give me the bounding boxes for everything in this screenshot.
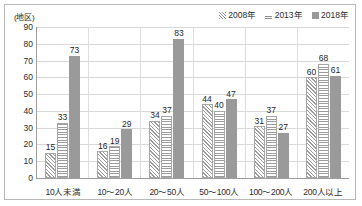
bar-rect <box>318 64 329 178</box>
x-tick-4: 50〜100人 <box>193 185 245 197</box>
x-tick-2: 10〜20人 <box>89 185 141 197</box>
bars: 313727 <box>246 27 297 178</box>
bar-value-label: 16 <box>98 142 107 151</box>
y-tick-30: 30 <box>5 123 33 132</box>
x-axis-baseline <box>36 178 349 179</box>
bar-value-label: 73 <box>70 46 79 55</box>
bar-value-label: 44 <box>202 95 211 104</box>
legend-label-2008: 2008年 <box>228 11 256 20</box>
y-tick-90: 90 <box>5 23 33 32</box>
bar-rect <box>214 111 225 178</box>
bar-value-label: 33 <box>58 113 67 122</box>
chart-frame: (地区) 2008年 2013年 2018年 90807060504030201… <box>4 4 356 200</box>
y-tick-10: 10 <box>5 157 33 166</box>
bar-group-2: 161929 <box>89 27 141 178</box>
bar-rect <box>161 116 172 178</box>
bar-rect <box>57 123 68 178</box>
bar-value-label: 27 <box>279 123 288 132</box>
bar-rect <box>306 77 317 178</box>
legend-swatch-diagonal-hatch-icon <box>219 12 226 19</box>
bar-rect <box>330 76 341 178</box>
y-tick-70: 70 <box>5 56 33 65</box>
x-tick-6: 200人以上 <box>297 185 349 197</box>
bar-value-label: 47 <box>226 90 235 99</box>
bar-2018年-20〜50人[interactable]: 83 <box>173 27 184 178</box>
bar-2018年-10人未満[interactable]: 73 <box>69 27 80 178</box>
bar-value-label: 37 <box>162 106 171 115</box>
bar-2008年-10人未満[interactable]: 15 <box>45 27 56 178</box>
y-tick-20: 20 <box>5 140 33 149</box>
legend-item-2008[interactable]: 2008年 <box>219 11 256 20</box>
bar-group-4: 444047 <box>194 27 246 178</box>
x-tick-3: 20〜50人 <box>141 185 193 197</box>
bar-2008年-20〜50人[interactable]: 34 <box>149 27 160 178</box>
bar-rect <box>121 129 132 178</box>
bars: 161929 <box>89 27 140 178</box>
bar-2008年-50〜100人[interactable]: 44 <box>202 27 213 178</box>
bars: 343783 <box>141 27 192 178</box>
bar-value-label: 34 <box>150 111 159 120</box>
bar-value-label: 37 <box>267 106 276 115</box>
bar-2018年-50〜100人[interactable]: 47 <box>226 27 237 178</box>
bar-2018年-200人以上[interactable]: 61 <box>330 27 341 178</box>
bar-value-label: 15 <box>46 143 55 152</box>
legend-label-2018: 2018年 <box>321 11 349 20</box>
y-tick-40: 40 <box>5 107 33 116</box>
bar-rect <box>202 104 213 178</box>
bar-2013年-10〜20人[interactable]: 19 <box>109 27 120 178</box>
bar-value-label: 68 <box>319 54 328 63</box>
bar-rect <box>149 121 160 178</box>
bar-rect <box>266 116 277 178</box>
bar-2013年-10人未満[interactable]: 33 <box>57 27 68 178</box>
x-tick-1: 10人未満 <box>37 185 89 197</box>
bar-value-label: 40 <box>214 101 223 110</box>
y-tick-50: 50 <box>5 90 33 99</box>
y-tick-80: 80 <box>5 40 33 49</box>
x-axis-tick-labels: 10人未満10〜20人20〜50人50〜100人100〜200人200人以上 <box>37 185 349 197</box>
bar-2018年-100〜200人[interactable]: 27 <box>278 27 289 178</box>
y-tick-0: 0 <box>5 174 33 183</box>
bar-2008年-200人以上[interactable]: 60 <box>306 27 317 178</box>
bar-2008年-10〜20人[interactable]: 16 <box>97 27 108 178</box>
legend-item-2018[interactable]: 2018年 <box>312 11 349 20</box>
legend-swatch-horizontal-stripe-icon <box>265 12 272 19</box>
bars: 153373 <box>37 27 88 178</box>
bar-groups: 153373161929343783444047313727606861 <box>37 27 349 178</box>
bars: 444047 <box>194 27 245 178</box>
bar-rect <box>109 146 120 178</box>
bar-value-label: 29 <box>122 120 131 129</box>
chart-legend: 2008年 2013年 2018年 <box>219 11 349 20</box>
bar-value-label: 83 <box>174 29 183 38</box>
bar-value-label: 60 <box>307 68 316 77</box>
bar-value-label: 31 <box>255 117 264 126</box>
bar-2013年-50〜100人[interactable]: 40 <box>214 27 225 178</box>
bar-group-6: 606861 <box>298 27 349 178</box>
bar-2013年-20〜50人[interactable]: 37 <box>161 27 172 178</box>
bar-2018年-10〜20人[interactable]: 29 <box>121 27 132 178</box>
legend-item-2013[interactable]: 2013年 <box>265 11 302 20</box>
bar-rect <box>173 39 184 178</box>
bar-group-3: 343783 <box>141 27 193 178</box>
bar-rect <box>254 126 265 178</box>
bar-2013年-100〜200人[interactable]: 37 <box>266 27 277 178</box>
bar-rect <box>97 151 108 178</box>
bar-group-1: 153373 <box>37 27 89 178</box>
bars: 606861 <box>298 27 349 178</box>
y-axis-tick-labels: 9080706050403020100 <box>5 27 33 178</box>
legend-swatch-solid-icon <box>312 12 319 19</box>
x-tick-5: 100〜200人 <box>245 185 297 197</box>
bar-rect <box>45 153 56 178</box>
bar-rect <box>226 99 237 178</box>
y-tick-60: 60 <box>5 73 33 82</box>
bar-value-label: 61 <box>331 66 340 75</box>
bar-group-5: 313727 <box>246 27 298 178</box>
bar-rect <box>69 56 80 178</box>
y-axis-unit-label: (地区) <box>14 11 35 22</box>
bar-rect <box>278 133 289 178</box>
bar-value-label: 19 <box>110 137 119 146</box>
legend-label-2013: 2013年 <box>275 11 303 20</box>
bar-2008年-100〜200人[interactable]: 31 <box>254 27 265 178</box>
bar-2013年-200人以上[interactable]: 68 <box>318 27 329 178</box>
